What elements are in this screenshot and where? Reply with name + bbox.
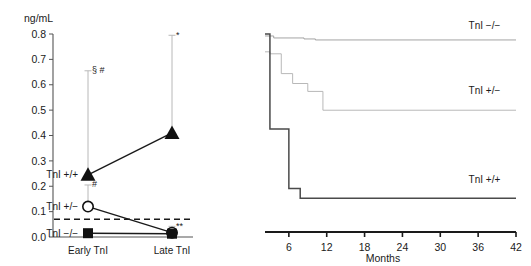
series-labels-group: TnI +/+TnI +/−TnI −/− bbox=[46, 169, 78, 238]
marker-filled-square bbox=[83, 228, 93, 238]
series-connector-line bbox=[88, 233, 172, 234]
marker-filled-triangle bbox=[165, 125, 180, 138]
cardiac-event-free-survival-chart: 020406080100 06121824303642 TnI −/−TnI +… bbox=[265, 0, 531, 266]
y-tick-label: 0.1 bbox=[31, 205, 46, 217]
y-tick-label: 0.7 bbox=[31, 53, 46, 65]
significance-annotation: § # bbox=[92, 65, 105, 75]
km-x-tick-label: 6 bbox=[286, 241, 292, 253]
series-label-TnI: TnI +/− bbox=[46, 201, 78, 212]
x-category-label: Early TnI bbox=[68, 245, 108, 256]
significance-annotation: ** bbox=[176, 221, 184, 231]
figure-container: ng/mL 0.00.10.20.30.40.50.60.70.8 TnI +/… bbox=[0, 0, 531, 266]
km-curve-TnI bbox=[265, 34, 516, 40]
km-x-axis-ticks: 06121824303642 bbox=[265, 232, 522, 253]
km-curve-TnI bbox=[265, 34, 516, 110]
y-tick-label: 0.5 bbox=[31, 104, 46, 116]
km-x-tick-label: 36 bbox=[472, 241, 484, 253]
category-labels-group: Early TnILate TnI bbox=[68, 245, 190, 256]
survival-chart-panel: 020406080100 06121824303642 TnI −/−TnI +… bbox=[265, 0, 531, 266]
significance-annotation: * bbox=[176, 30, 180, 40]
y-tick-label: 0.6 bbox=[31, 78, 46, 90]
series-connector-line bbox=[88, 133, 172, 175]
series-label-TnI: TnI −/− bbox=[46, 228, 78, 239]
y-tick-label: 0.4 bbox=[31, 129, 46, 141]
km-x-tick-label: 12 bbox=[321, 241, 333, 253]
km-x-tick-label: 42 bbox=[510, 241, 522, 253]
troponin-level-chart: ng/mL 0.00.10.20.30.40.50.60.70.8 TnI +/… bbox=[0, 0, 265, 266]
km-curve-label-TnI: TnI +/+ bbox=[469, 174, 501, 185]
marker-open-circle bbox=[83, 201, 93, 211]
significance-annotation: # bbox=[92, 179, 97, 189]
y-tick-label: 0.2 bbox=[31, 180, 46, 192]
troponin-level-chart-panel: ng/mL 0.00.10.20.30.40.50.60.70.8 TnI +/… bbox=[0, 0, 265, 266]
x-category-label: Late TnI bbox=[154, 245, 191, 256]
km-curve-label-TnI: TnI +/− bbox=[469, 85, 501, 96]
y-tick-label: 0.0 bbox=[31, 231, 46, 243]
km-curve-labels-group: TnI −/−TnI +/−TnI +/+ bbox=[469, 20, 501, 185]
y-axis-unit-label: ng/mL bbox=[24, 12, 53, 24]
series-label-TnI: TnI +/+ bbox=[46, 169, 78, 180]
km-x-tick-label: 30 bbox=[434, 241, 446, 253]
km-curve-label-TnI: TnI −/− bbox=[469, 20, 501, 31]
y-tick-label: 0.3 bbox=[31, 155, 46, 167]
y-tick-label: 0.8 bbox=[31, 28, 46, 40]
km-x-axis-title: Months bbox=[366, 252, 400, 264]
